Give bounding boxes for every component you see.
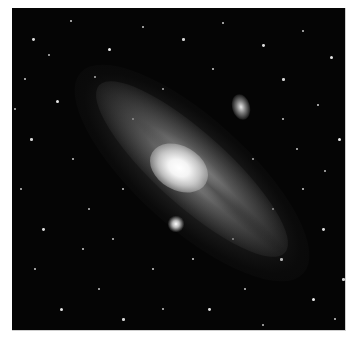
galaxy-disk <box>75 59 309 280</box>
star <box>317 104 319 106</box>
star <box>142 26 144 28</box>
star <box>272 208 274 210</box>
star <box>302 188 304 190</box>
star <box>262 324 264 326</box>
star <box>322 228 325 231</box>
star <box>302 30 304 32</box>
star <box>334 318 336 320</box>
star <box>56 100 59 103</box>
andromeda-galaxy-photo <box>12 8 346 331</box>
star <box>342 278 345 281</box>
star <box>20 188 22 190</box>
star <box>98 288 100 290</box>
star <box>82 248 84 250</box>
satellite-galaxy-upper-right <box>229 92 253 122</box>
galaxy-outer-halo <box>44 32 341 314</box>
star <box>32 38 35 41</box>
star <box>212 68 214 70</box>
star <box>330 56 333 59</box>
star <box>24 78 26 80</box>
star <box>244 288 246 290</box>
star <box>296 148 298 150</box>
star <box>30 138 33 141</box>
star <box>14 108 16 110</box>
galaxy-core <box>141 133 217 202</box>
star <box>192 258 194 260</box>
star <box>112 238 114 240</box>
star <box>162 88 164 90</box>
star <box>162 308 164 310</box>
star <box>222 22 224 24</box>
star <box>70 20 72 22</box>
star <box>282 118 284 120</box>
star <box>312 298 315 301</box>
star <box>88 208 90 210</box>
star <box>94 76 96 78</box>
star <box>34 268 36 270</box>
star <box>132 118 134 120</box>
star <box>122 318 125 321</box>
star <box>60 308 63 311</box>
star <box>208 308 211 311</box>
star <box>324 170 326 172</box>
star <box>262 44 265 47</box>
star <box>338 138 341 141</box>
star <box>122 188 124 190</box>
star <box>152 268 154 270</box>
star <box>48 54 50 56</box>
galaxy-dust-lane <box>127 110 296 265</box>
satellite-galaxy-below-core <box>168 216 184 232</box>
star <box>252 158 254 160</box>
star <box>42 228 45 231</box>
star <box>232 238 234 240</box>
star <box>182 38 185 41</box>
star <box>280 258 283 261</box>
star <box>108 48 111 51</box>
star <box>72 158 74 160</box>
star <box>282 78 285 81</box>
